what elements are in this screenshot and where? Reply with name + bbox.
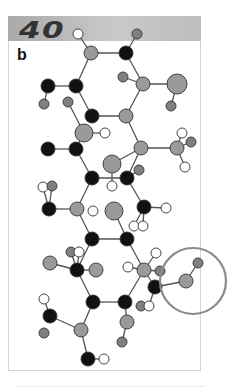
atom-gray bbox=[120, 315, 134, 329]
atom-gray bbox=[119, 109, 133, 123]
atom-black bbox=[43, 309, 57, 323]
atom-black bbox=[119, 46, 133, 60]
atom-dgray bbox=[166, 101, 176, 111]
atom-black bbox=[85, 171, 99, 185]
atom-dgray bbox=[63, 97, 73, 107]
atom-black bbox=[81, 352, 95, 366]
molecule-diagram bbox=[0, 0, 239, 388]
atom-gray bbox=[170, 141, 184, 155]
atom-dgray bbox=[134, 165, 144, 175]
atom-white bbox=[177, 128, 187, 138]
atom-gray bbox=[167, 74, 187, 94]
atom-gray bbox=[74, 323, 88, 337]
atom-gray bbox=[179, 274, 193, 288]
atom-white bbox=[73, 29, 83, 39]
atom-gray bbox=[105, 202, 123, 220]
atom-dgray bbox=[39, 99, 49, 109]
atom-black bbox=[137, 200, 151, 214]
atom-gray bbox=[70, 202, 84, 216]
atom-black bbox=[120, 171, 134, 185]
atom-black bbox=[118, 295, 132, 309]
atom-black bbox=[120, 232, 134, 246]
atom-gray bbox=[134, 141, 148, 155]
atom-black bbox=[42, 202, 56, 216]
atom-black bbox=[41, 142, 55, 156]
atom-white bbox=[74, 247, 84, 257]
figure-stage: 40 b bbox=[0, 0, 239, 388]
atom-dgray bbox=[39, 328, 49, 338]
atom-dgray bbox=[117, 337, 127, 347]
atom-white bbox=[138, 221, 148, 231]
atom-white bbox=[180, 162, 190, 172]
atom-black bbox=[86, 295, 100, 309]
atom-gray bbox=[136, 77, 150, 91]
atom-white bbox=[39, 294, 49, 304]
atom-gray bbox=[43, 256, 57, 270]
atom-white bbox=[107, 181, 117, 191]
atom-black bbox=[70, 263, 84, 277]
atom-black bbox=[69, 79, 83, 93]
atom-dgray bbox=[132, 29, 142, 39]
atom-dgray bbox=[193, 258, 203, 268]
atom-white bbox=[123, 262, 133, 272]
atom-white bbox=[144, 301, 154, 311]
atom-white bbox=[161, 203, 171, 213]
atom-white bbox=[100, 128, 110, 138]
atom-gray bbox=[103, 155, 121, 173]
atom-white bbox=[129, 221, 139, 231]
atom-dgray bbox=[47, 181, 57, 191]
atom-gray bbox=[84, 46, 98, 60]
atom-white bbox=[99, 354, 109, 364]
atom-black bbox=[41, 79, 55, 93]
atom-white bbox=[151, 248, 161, 258]
atom-layer bbox=[38, 29, 203, 366]
atom-white bbox=[38, 182, 48, 192]
atom-dgray bbox=[186, 137, 196, 147]
atom-white bbox=[88, 206, 98, 216]
atom-gray bbox=[137, 263, 151, 277]
atom-dgray bbox=[118, 72, 128, 82]
atom-black bbox=[69, 142, 83, 156]
atom-black bbox=[85, 109, 99, 123]
atom-black bbox=[85, 232, 99, 246]
atom-gray bbox=[89, 263, 103, 277]
atom-gray bbox=[75, 124, 93, 142]
bottom-divider bbox=[15, 386, 205, 387]
